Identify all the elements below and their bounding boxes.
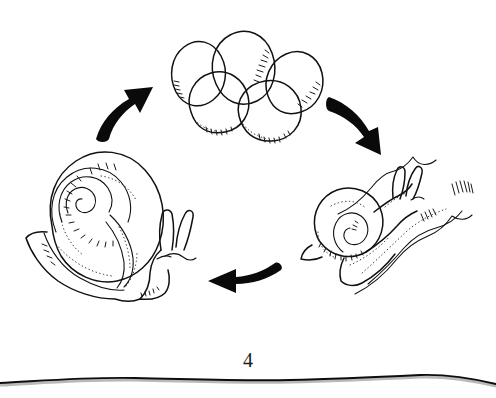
juvenile-tentacle-right [406, 166, 422, 199]
snail-life-cycle-diagram [0, 0, 496, 398]
juvenile-shell-outer [314, 188, 382, 257]
arrow-adult-to-eggs [96, 87, 153, 142]
leaf-lower-edge [355, 215, 472, 294]
arrow-eggs-to-juvenile [326, 97, 381, 155]
arrow-juvenile-to-adult [208, 263, 282, 293]
figure-page: 4 [0, 0, 496, 398]
stage-juvenile-snail [301, 157, 473, 294]
leaf-upper-edge [338, 157, 436, 214]
stage-eggs [172, 31, 323, 143]
adult-snail-head [140, 250, 161, 299]
adult-snail-neck-hatching [42, 244, 55, 265]
adult-snail-tentacle-right [176, 210, 193, 250]
egg-back-left [172, 41, 226, 105]
figure-number: 4 [0, 349, 496, 371]
stage-adult-snail [26, 152, 196, 301]
leaf-tip-hatching [452, 181, 473, 195]
adult-snail-shell-hatching [64, 163, 116, 247]
juvenile-shell-whorl [334, 213, 368, 252]
scan-page-edge [0, 375, 496, 386]
egg-back-right-shading [298, 82, 320, 107]
leaf-edge-hatching [421, 209, 436, 221]
juvenile-shell-hatching [319, 221, 363, 261]
adult-snail-shell-apex [66, 187, 95, 213]
juvenile-tentacle-left [393, 167, 405, 199]
